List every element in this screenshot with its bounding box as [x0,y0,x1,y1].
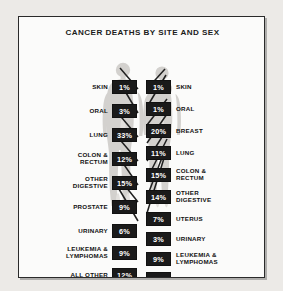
percent-badge: 11% [146,146,171,161]
list-item[interactable]: 7% UTERUS [146,211,258,227]
list-item[interactable]: COLON &RECTUM 12% [25,151,137,167]
site-label: LEUKEMIA &LYMPHOMAS [176,252,218,266]
list-item[interactable]: 1% ORAL [146,101,258,117]
percent-badge: 20% [146,124,171,139]
site-label: UTERUS [176,216,203,223]
percent-badge: 9% [146,252,171,267]
percent-badge: 33% [112,128,137,143]
list-item[interactable]: PROSTATE 9% [25,199,137,215]
list-item[interactable]: 20% BREAST [146,123,258,139]
percent-badge: 15% [146,168,171,183]
list-item[interactable]: 15% COLON &RECTUM [146,167,258,183]
percent-badge: 9% [112,200,137,215]
site-label: OTHERDIGESTIVE [176,190,211,204]
site-label: SKIN [176,84,192,91]
site-label: BREAST [176,128,203,135]
percent-badge: 14% [146,190,171,205]
site-label: URINARY [78,228,108,235]
percent-badge: 1% [146,80,171,95]
percent-badge: 9% [112,246,137,261]
site-label: URINARY [176,236,206,243]
list-item[interactable]: ORAL 3% [25,103,137,119]
site-label: ALL OTHER [176,276,214,278]
list-item[interactable]: 11% LUNG [146,145,258,161]
percent-badge: 12% [112,268,137,278]
list-item[interactable]: 1% SKIN [146,79,258,95]
site-label: COLON &RECTUM [78,152,108,166]
percent-badge: 12% [112,152,137,167]
list-item[interactable]: URINARY 6% [25,223,137,239]
site-label: LEUKEMIA &LYMPHOMAS [66,246,108,260]
percent-badge: 15% [112,176,137,191]
list-item[interactable]: OTHERDIGESTIVE 15% [25,175,137,191]
site-label: SKIN [92,84,108,91]
percent-badge: 19% [146,272,171,278]
list-item[interactable]: SKIN 1% [25,79,137,95]
site-label: LUNG [176,150,195,157]
list-item[interactable]: 19% ALL OTHER [146,271,258,278]
list-item[interactable]: LUNG 33% [25,127,137,143]
percent-badge: 1% [146,102,171,117]
list-item[interactable]: 9% LEUKEMIA &LYMPHOMAS [146,251,258,267]
site-label: PROSTATE [73,204,108,211]
percent-badge: 6% [112,224,137,239]
percent-badge: 7% [146,212,171,227]
percent-badge: 3% [146,232,171,247]
percent-badge: 3% [112,104,137,119]
list-item[interactable]: ALL OTHER 12% [25,267,137,278]
site-label: LUNG [89,132,108,139]
site-label: ALL OTHER [70,272,108,278]
percent-badge: 1% [112,80,137,95]
list-item[interactable]: 3% URINARY [146,231,258,247]
site-label: ORAL [89,108,108,115]
site-label: ORAL [176,106,195,113]
list-item[interactable]: 14% OTHERDIGESTIVE [146,189,258,205]
list-item[interactable]: LEUKEMIA &LYMPHOMAS 9% [25,245,137,261]
site-label: COLON &RECTUM [176,168,206,182]
poster-frame: CANCER DEATHS BY SITE AND SEX [18,16,265,278]
site-label: OTHERDIGESTIVE [73,176,108,190]
